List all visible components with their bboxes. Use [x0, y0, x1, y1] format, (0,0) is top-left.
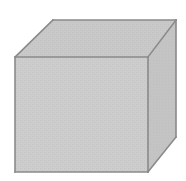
front-face-texture	[15, 57, 148, 172]
front-face	[15, 57, 148, 172]
figure-container: Cube Line drawing of a three-dimensional…	[0, 0, 186, 181]
cube-illustration: Cube Line drawing of a three-dimensional…	[0, 0, 186, 181]
